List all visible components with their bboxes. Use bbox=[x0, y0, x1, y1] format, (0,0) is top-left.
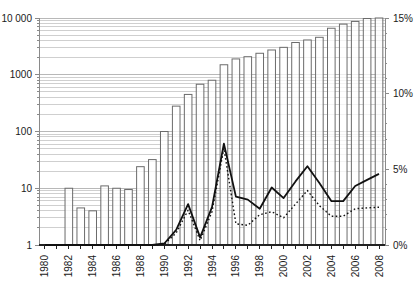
x-axis-label-2008: 2008 bbox=[374, 255, 385, 278]
x-axis-label-1982: 1982 bbox=[63, 255, 74, 278]
bar-2005 bbox=[339, 24, 347, 245]
bar-1990 bbox=[160, 132, 168, 246]
x-axis-label-2002: 2002 bbox=[302, 255, 313, 278]
bar-1999 bbox=[268, 50, 276, 245]
bar-2006 bbox=[351, 21, 359, 245]
bar-1992 bbox=[184, 94, 192, 245]
bar-1998 bbox=[256, 53, 264, 245]
x-axis-label-1990: 1990 bbox=[159, 255, 170, 278]
bar-1994 bbox=[208, 80, 216, 245]
x-axis-label-1988: 1988 bbox=[135, 255, 146, 278]
log-bar-percent-line-chart: 110100100010 0000%5%10%15%19801982198419… bbox=[0, 0, 417, 293]
x-axis-label-1992: 1992 bbox=[183, 255, 194, 278]
right-axis-label-10: 10% bbox=[393, 88, 413, 99]
bar-1983 bbox=[77, 208, 85, 245]
left-axis-label-10: 10 bbox=[21, 183, 33, 194]
bar-1997 bbox=[244, 57, 252, 245]
right-axis-label-5: 5% bbox=[393, 164, 408, 175]
x-axis-label-2006: 2006 bbox=[350, 255, 361, 278]
left-axis-label-1000: 1000 bbox=[10, 69, 33, 80]
bar-1986 bbox=[113, 188, 121, 245]
x-axis-label-2004: 2004 bbox=[326, 255, 337, 278]
x-axis-label-2000: 2000 bbox=[278, 255, 289, 278]
chart-canvas: 110100100010 0000%5%10%15%19801982198419… bbox=[0, 0, 417, 293]
bar-2004 bbox=[328, 28, 336, 245]
left-axis-label-10000: 10 000 bbox=[1, 13, 32, 24]
bar-1987 bbox=[125, 190, 133, 245]
x-axis-label-1996: 1996 bbox=[230, 255, 241, 278]
bar-1996 bbox=[232, 59, 240, 245]
bar-2001 bbox=[292, 43, 300, 245]
bar-2002 bbox=[304, 40, 312, 245]
right-axis-label-0: 0% bbox=[393, 240, 408, 251]
bar-2008 bbox=[375, 18, 383, 245]
bar-1989 bbox=[149, 160, 157, 245]
bar-2000 bbox=[280, 47, 288, 245]
x-axis-label-1994: 1994 bbox=[207, 255, 218, 278]
bar-1985 bbox=[101, 186, 109, 245]
x-axis-label-1984: 1984 bbox=[87, 255, 98, 278]
bar-2007 bbox=[363, 18, 371, 245]
bar-1993 bbox=[196, 84, 204, 245]
bar-1984 bbox=[89, 211, 97, 245]
x-axis-label-1980: 1980 bbox=[39, 255, 50, 278]
left-axis-label-100: 100 bbox=[15, 126, 32, 137]
x-axis-label-1998: 1998 bbox=[254, 255, 265, 278]
right-axis-label-15: 15% bbox=[393, 13, 413, 24]
bar-1982 bbox=[65, 188, 73, 245]
bar-1988 bbox=[137, 167, 145, 245]
bar-2003 bbox=[316, 37, 324, 245]
left-axis-label-1: 1 bbox=[26, 240, 32, 251]
x-axis-label-1986: 1986 bbox=[111, 255, 122, 278]
